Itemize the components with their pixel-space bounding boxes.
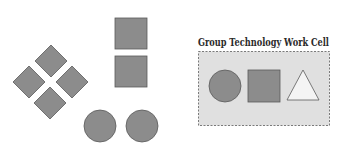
circle-group bbox=[84, 110, 158, 142]
diamond-top-icon bbox=[35, 45, 67, 77]
diamond-right-icon bbox=[56, 66, 88, 98]
square-bottom-icon bbox=[115, 56, 147, 87]
group-technology-diagram: Group Technology Work Cell bbox=[0, 0, 344, 151]
diamond-cluster bbox=[13, 45, 88, 119]
square-top-icon bbox=[115, 18, 147, 49]
diamond-left-icon bbox=[13, 66, 45, 98]
work-cell-title: Group Technology Work Cell bbox=[198, 36, 329, 48]
diamond-bottom-icon bbox=[34, 87, 66, 119]
cell-square-icon bbox=[248, 70, 280, 102]
cell-circle-icon bbox=[209, 70, 241, 102]
circle-left-icon bbox=[84, 110, 116, 142]
square-group bbox=[115, 18, 147, 87]
circle-right-icon bbox=[126, 110, 158, 142]
